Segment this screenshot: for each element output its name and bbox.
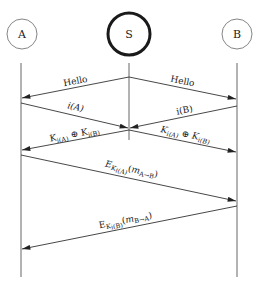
message-encrypted-b-to-a-label: EKi(B)(mB→A): [98, 210, 153, 234]
participant-s-label: S: [125, 28, 133, 41]
participant-b: B: [222, 19, 252, 49]
message-ia-label: i(A): [67, 100, 86, 114]
participant-s: S: [108, 13, 150, 55]
participant-b-label: B: [233, 28, 241, 41]
message-encrypted-b-to-a: [22, 206, 237, 249]
participant-a: A: [7, 19, 37, 49]
message-ib-label: i(B): [175, 104, 193, 117]
message-key-to-a-label: Ki(A) ⊕ Ki(B): [49, 124, 101, 146]
message-encrypted-a-to-b: [21, 155, 236, 201]
message-key-to-b-label: Ki(A) ⊕ Ki(B): [158, 124, 211, 147]
participant-a-label: A: [17, 28, 27, 41]
message-encrypted-a-to-b-label: EKi(A)(mA→B): [103, 158, 159, 183]
sequence-diagram: A S B Hello Hello i(A) i(B) Ki(A) ⊕ Ki(B…: [0, 0, 260, 284]
